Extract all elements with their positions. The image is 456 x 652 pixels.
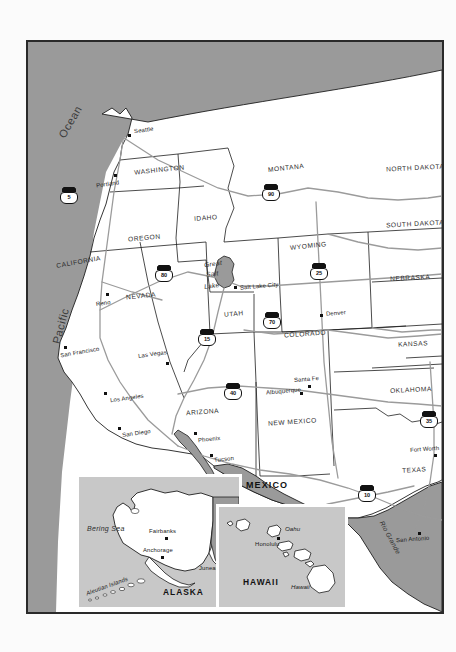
city-dot-phoenix [194,432,197,435]
shield-body: 10 [358,490,376,502]
shield-number: 25 [316,271,322,277]
shield-number: 35 [426,419,432,425]
shield-number: 80 [161,273,167,279]
shield-body: 40 [224,388,242,400]
island-label-oahu: Oahu [285,525,300,532]
hawaii-inset: Oahu Honolulu Hawaii HAWAII [216,504,348,610]
city-dot-portland [114,174,117,177]
hawaii-inset-title: HAWAII [243,577,279,587]
interstate-shield-15[interactable]: 15 [198,330,216,346]
shield-body: 90 [262,189,280,201]
interstate-shield-35[interactable]: 35 [420,412,438,428]
hawaii-shape-layer [219,507,345,607]
map-page: Ocean Pacific WASHINGTON OREGON IDAHO MO… [0,0,456,652]
city-label-fairbanks: Fairbanks [149,528,176,534]
shield-number: 10 [364,493,370,499]
city-label-anchorage: Anchorage [143,547,173,553]
shield-body: 5 [60,192,78,204]
city-dot-tucson [210,454,213,457]
city-dot-fairbanks [165,537,168,540]
city-dot-honolulu [277,537,280,540]
city-dot-los-angeles [104,392,107,395]
interstate-shield-70[interactable]: 70 [263,313,281,329]
city-dot-fort-worth [434,454,437,457]
city-dot-salt-lake-city [234,286,237,289]
city-dot-anchorage [161,556,164,559]
map-frame: Ocean Pacific WASHINGTON OREGON IDAHO MO… [26,40,444,614]
interstate-shield-90[interactable]: 90 [262,185,280,201]
shield-number: 5 [67,195,70,201]
interstate-shield-25[interactable]: 25 [310,264,328,280]
bering-sea-label: Bering Sea [87,525,125,532]
city-dot-denver [320,314,323,317]
city-label-honolulu: Honolulu [255,541,279,547]
city-dot-seattle [128,134,131,137]
city-dot-san-francisco [64,346,67,349]
city-dot-santa-fe [308,385,311,388]
island-label-hawaii: Hawaii [291,583,310,590]
interstate-shield-80[interactable]: 80 [155,266,173,282]
shield-body: 25 [310,268,328,280]
city-dot-reno [106,293,109,296]
alaska-inset-title: ALASKA [163,587,204,597]
city-dot-las-vegas [166,362,169,365]
shield-body: 15 [198,334,216,346]
interstate-shield-10[interactable]: 10 [358,486,376,502]
state-label-texas: TEXAS [402,465,427,473]
country-label-mexico: MEXICO [246,480,288,490]
shield-number: 15 [204,337,210,343]
interstate-shield-5[interactable]: 5 [60,188,78,204]
shield-body: 35 [420,416,438,428]
shield-number: 40 [230,391,236,397]
shield-number: 70 [269,320,275,326]
shield-number: 90 [268,192,274,198]
shield-body: 80 [155,270,173,282]
shield-body: 70 [263,317,281,329]
interstate-shield-40[interactable]: 40 [224,384,242,400]
city-dot-san-diego [118,427,121,430]
